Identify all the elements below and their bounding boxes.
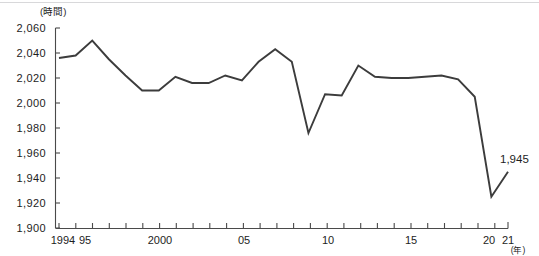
- x-tick-label: 15: [405, 234, 417, 246]
- y-tick-label: 1,920: [16, 197, 46, 209]
- value-annotation-2021: 1,945: [500, 153, 529, 165]
- y-axis-unit: (時間): [40, 6, 66, 17]
- x-tick-label: 1994: [51, 234, 75, 246]
- x-tick-label: 05: [238, 234, 250, 246]
- x-tick-label: 10: [322, 234, 334, 246]
- x-axis-unit: (年): [511, 245, 526, 255]
- chart-svg: (時間) 2,060 2,040 2,020 2,000 1,980 1,960…: [0, 0, 539, 256]
- chart-page: (時間) 2,060 2,040 2,020 2,000 1,980 1,960…: [0, 0, 539, 256]
- y-tick-label: 2,060: [16, 22, 46, 34]
- y-tick-label: 2,040: [16, 47, 46, 59]
- series-line-annual-working-hours: [59, 41, 508, 197]
- x-tick-label: 2000: [148, 234, 172, 246]
- y-tick-label: 2,000: [16, 97, 46, 109]
- x-tick-label: 95: [79, 234, 91, 246]
- y-tick-label: 2,020: [16, 72, 46, 84]
- x-tick-label: 20: [483, 234, 495, 246]
- x-tick-group: [59, 223, 495, 229]
- y-tick-label: 1,900: [16, 222, 46, 234]
- y-tick-label: 1,980: [16, 122, 46, 134]
- line-chart: (時間) 2,060 2,040 2,020 2,000 1,980 1,960…: [0, 0, 539, 256]
- y-tick-label: 1,940: [16, 172, 46, 184]
- y-tick-label: 1,960: [16, 147, 46, 159]
